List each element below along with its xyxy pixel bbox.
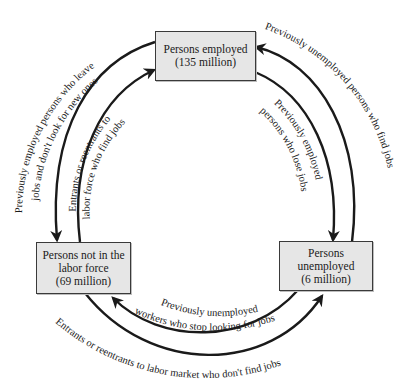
node-not-in-labor-line3: (69 million) <box>56 275 111 288</box>
label-left-inner-line2: labor force who find jobs <box>80 116 127 220</box>
node-unemployed-line3: (6 million) <box>301 273 351 286</box>
node-not-in-labor-line1: Persons not in the <box>42 249 124 262</box>
node-persons-employed: Persons employed (135 million) <box>155 31 256 81</box>
node-employed-line1: Persons employed <box>163 43 247 56</box>
label-right-outer: Previously unemployed persons who find j… <box>264 20 397 169</box>
node-employed-line2: (135 million) <box>175 56 236 69</box>
node-persons-unemployed: Persons unemployed (6 million) <box>279 241 373 291</box>
label-bottom-inner-line1: Previously unemployed <box>160 296 260 318</box>
node-not-in-labor-line2: labor force <box>58 262 108 275</box>
node-unemployed-line1: Persons <box>308 247 344 260</box>
node-persons-not-in-labor-force: Persons not in the labor force (69 milli… <box>36 242 131 294</box>
label-right-inner-line2: persons who lose jobs <box>258 105 310 192</box>
node-unemployed-line2: unemployed <box>298 260 355 273</box>
